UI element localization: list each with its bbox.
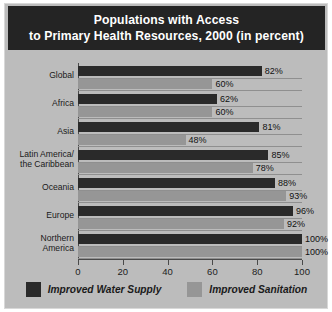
gridline	[78, 174, 302, 175]
bar-value-label: 100%	[305, 234, 328, 244]
legend-item: Improved Sanitation	[187, 282, 307, 297]
category-label: Global	[8, 71, 74, 81]
legend-label: Improved Water Supply	[48, 284, 162, 295]
bar-value-label: 78%	[256, 163, 274, 173]
x-axis-tick	[168, 260, 169, 265]
bar-sanitation	[78, 191, 286, 201]
x-axis-tick	[212, 260, 213, 265]
category-label: Oceania	[8, 183, 74, 193]
bar-sanitation	[78, 135, 186, 145]
x-axis-tick	[302, 260, 303, 265]
bars-container: 82%60%62%60%81%48%85%78%88%93%96%92%100%…	[78, 63, 302, 259]
category-label: Africa	[8, 99, 74, 109]
x-axis-tick	[123, 260, 124, 265]
title-line-2: to Primary Health Resources, 2000 (in pe…	[29, 28, 304, 44]
x-axis-line	[78, 259, 302, 260]
bar-sanitation	[78, 163, 253, 173]
bar-value-label: 82%	[265, 66, 283, 76]
chart-plot-area: GlobalAfricaAsiaLatin America/ the Carib…	[8, 51, 325, 307]
bar-value-label: 81%	[262, 122, 280, 132]
bar-water-supply	[78, 150, 268, 160]
bar-value-label: 88%	[278, 178, 296, 188]
bar-value-label: 60%	[215, 79, 233, 89]
legend-swatch-icon	[187, 282, 202, 297]
chart-legend: Improved Water SupplyImproved Sanitation	[8, 276, 325, 302]
chart-figure: Populations with Access to Primary Healt…	[0, 0, 332, 312]
category-label: Asia	[8, 127, 74, 137]
bar-water-supply	[78, 206, 293, 216]
bar-water-supply	[78, 66, 262, 76]
bar-value-label: 62%	[220, 94, 238, 104]
category-label: Latin America/ the Caribbean	[8, 150, 74, 169]
bar-water-supply	[78, 178, 275, 188]
gridline	[78, 146, 302, 147]
x-axis-tick	[78, 260, 79, 265]
bar-value-label: 93%	[289, 191, 307, 201]
gridline	[78, 258, 302, 259]
chart-title-banner: Populations with Access to Primary Healt…	[8, 6, 325, 50]
bar-sanitation	[78, 219, 284, 229]
bar-sanitation	[78, 107, 212, 117]
bar-sanitation	[78, 79, 212, 89]
bar-value-label: 48%	[189, 135, 207, 145]
x-axis-tick	[257, 260, 258, 265]
bar-value-label: 100%	[305, 247, 328, 257]
bar-value-label: 60%	[215, 107, 233, 117]
gridline	[78, 118, 302, 119]
legend-label: Improved Sanitation	[209, 284, 307, 295]
category-label: Northern America	[8, 234, 74, 253]
gridline	[78, 202, 302, 203]
chart-card: Populations with Access to Primary Healt…	[4, 3, 328, 309]
bar-value-label: 92%	[287, 219, 305, 229]
bar-value-label: 85%	[271, 150, 289, 160]
bar-water-supply	[78, 94, 217, 104]
bar-value-label: 96%	[296, 206, 314, 216]
bar-sanitation	[78, 247, 302, 257]
legend-item: Improved Water Supply	[26, 282, 162, 297]
bar-water-supply	[78, 234, 302, 244]
category-axis-labels: GlobalAfricaAsiaLatin America/ the Carib…	[8, 63, 74, 259]
category-label: Europe	[8, 211, 74, 221]
gridline	[78, 230, 302, 231]
title-line-1: Populations with Access	[94, 12, 239, 28]
legend-swatch-icon	[26, 282, 41, 297]
gridline	[78, 90, 302, 91]
bar-water-supply	[78, 122, 259, 132]
